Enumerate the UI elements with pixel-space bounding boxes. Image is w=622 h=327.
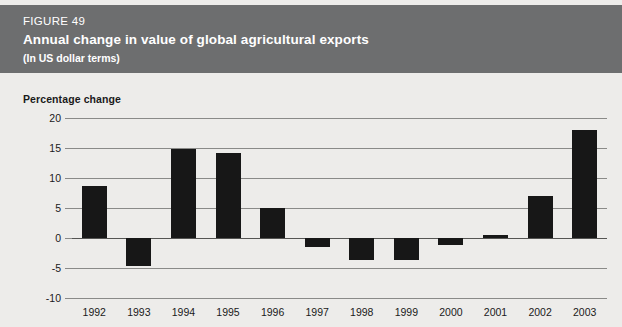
x-tick-label-1992: 1992 [83,306,106,318]
x-tick-label-1998: 1998 [350,306,373,318]
x-tick-label-2001: 2001 [484,306,507,318]
x-tick-label-1999: 1999 [395,306,418,318]
x-tick-label-2002: 2002 [528,306,551,318]
figure-title: Annual change in value of global agricul… [23,30,622,50]
bar-2003 [572,130,597,238]
y-tick-label-10: 10 [49,172,61,184]
bar-1999 [394,238,419,260]
plot-canvas: 20151050-5-10199219931994199519961997199… [72,118,607,298]
figure-number-label: FIGURE 49 [23,14,622,29]
x-tick-label-2003: 2003 [573,306,596,318]
x-tick-label-2000: 2000 [439,306,462,318]
bar-1995 [216,153,241,238]
x-tick-label-1993: 1993 [127,306,150,318]
y-tick-mark-20 [65,118,72,119]
bar-1994 [171,149,196,238]
y-tick-mark-5 [65,208,72,209]
bar-1998 [349,238,374,260]
x-tick-label-1995: 1995 [216,306,239,318]
figure-subtitle: (In US dollar terms) [23,51,622,66]
x-tick-label-1996: 1996 [261,306,284,318]
gridline-0 [72,238,607,239]
y-tick-label--5: -5 [52,262,61,274]
gridline-10 [72,178,607,179]
y-axis-title: Percentage change [23,93,121,105]
y-tick-mark--5 [65,268,72,269]
y-tick-mark-10 [65,178,72,179]
y-tick-mark--10 [65,298,72,299]
x-tick-label-1994: 1994 [172,306,195,318]
bar-1992 [82,186,107,238]
bar-1993 [126,238,151,266]
bar-1996 [260,208,285,238]
y-tick-mark-15 [65,148,72,149]
gridline-15 [72,148,607,149]
bar-2000 [438,238,463,245]
figure-header-band: FIGURE 49 Annual change in value of glob… [0,5,622,73]
gridline--5 [72,268,607,269]
y-tick-label--10: -10 [46,292,61,304]
y-tick-label-5: 5 [55,202,61,214]
bar-2001 [483,235,508,238]
x-tick-label-1997: 1997 [306,306,329,318]
bar-1997 [305,238,330,247]
chart-area: Percentage change 20151050-5-10199219931… [0,73,622,327]
gridline--10 [72,298,607,299]
y-tick-label-15: 15 [49,142,61,154]
y-tick-mark-0 [65,238,72,239]
gridline-20 [72,118,607,119]
y-tick-label-0: 0 [55,232,61,244]
figure-container: FIGURE 49 Annual change in value of glob… [0,0,622,327]
y-tick-label-20: 20 [49,112,61,124]
bar-2002 [528,196,553,238]
